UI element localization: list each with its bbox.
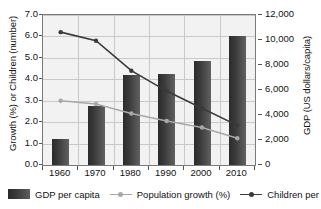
y-axis-right-ticks: 02,0004,0006,0008,00010,00012,000 [258, 0, 306, 209]
y-axis-left-tick-label: 3.0 [25, 94, 38, 105]
y-axis-right-tick-label: 12,000 [265, 8, 294, 19]
legend-item-label: GDP per capita [35, 189, 100, 200]
x-axis-tick-label: 1960 [40, 167, 80, 178]
y-axis-right-tickmark [258, 114, 262, 115]
x-axis-tick-label: 1970 [75, 167, 115, 178]
y-axis-left-ticks: 0.01.02.03.04.05.06.07.0 [12, 0, 38, 209]
y-axis-right-tickmark [258, 64, 262, 65]
data-point-marker [94, 39, 98, 43]
chart-figure: Growth (%) or Children (number) GDP (US … [0, 0, 321, 209]
data-point-marker [58, 30, 62, 34]
y-axis-right-tickmark [258, 164, 262, 165]
data-point-marker [235, 136, 239, 140]
y-axis-left-tick-label: 4.0 [25, 72, 38, 83]
data-point-marker [200, 106, 204, 110]
y-axis-right-tickmark [258, 39, 262, 40]
y-axis-left-tick-label: 2.0 [25, 115, 38, 126]
plot-area [42, 14, 256, 166]
legend-item: GDP per capita [8, 189, 100, 200]
y-axis-right-tickmark [258, 14, 262, 15]
y-axis-left-tick-label: 1.0 [25, 137, 38, 148]
line-series-overlay [43, 15, 256, 166]
y-axis-left-tick-label: 6.0 [25, 29, 38, 40]
x-axis-tick-label: 2010 [216, 167, 256, 178]
y-axis-right-tick-label: 2,000 [265, 133, 289, 144]
data-point-marker [129, 111, 133, 115]
y-axis-right-tick-label: 10,000 [265, 33, 294, 44]
x-axis-tick-label: 2000 [181, 167, 221, 178]
legend-item: Population growth (%) [110, 189, 230, 200]
y-axis-left-tick-label: 0.0 [25, 158, 38, 169]
y-axis-right-tickmark [258, 89, 262, 90]
x-axis-tick-label: 1980 [110, 167, 150, 178]
chart-legend: GDP per capitaPopulation growth (%)Child… [8, 186, 321, 202]
y-axis-left-tick-label: 5.0 [25, 51, 38, 62]
legend-item: Children per [240, 189, 319, 200]
legend-item-label: Population growth (%) [137, 189, 230, 200]
legend-item-label: Children per [267, 189, 319, 200]
data-point-marker [235, 123, 239, 127]
line-path [61, 101, 238, 138]
y-axis-left-tick-label: 7.0 [25, 8, 38, 19]
legend-line-marker-icon [240, 189, 262, 199]
y-axis-right-tickmark [258, 139, 262, 140]
legend-line-marker-icon [110, 189, 132, 199]
line-path [61, 32, 238, 125]
data-point-marker [164, 89, 168, 93]
data-point-marker [94, 102, 98, 106]
legend-bar-swatch-icon [8, 189, 30, 199]
data-point-marker [164, 119, 168, 123]
x-axis-tick-labels: 196019701980199020002010 [42, 167, 256, 181]
data-point-marker [129, 69, 133, 73]
y-axis-right-tick-label: 4,000 [265, 108, 289, 119]
y-axis-right-tick-label: 8,000 [265, 58, 289, 69]
data-point-marker [200, 125, 204, 129]
y-axis-right-tick-label: 0 [265, 158, 270, 169]
y-axis-right-tick-label: 6,000 [265, 83, 289, 94]
data-point-marker [58, 99, 62, 103]
x-axis-tick-label: 1990 [146, 167, 186, 178]
